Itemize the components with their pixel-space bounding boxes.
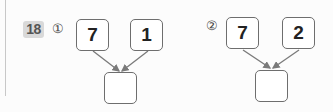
margin-divider [5,0,6,96]
part-2-top-left-box: 7 [226,17,259,49]
part-1-answer-box[interactable] [104,72,137,104]
part-1-top-right-box: 1 [130,19,163,51]
part-2-marker: ② [206,19,218,32]
problem-number-badge: 18 [23,21,44,38]
part-1-marker: ① [52,22,64,35]
part-1-top-left-box: 7 [76,19,109,51]
part-2-answer-box[interactable] [255,70,288,102]
part-2-top-right-box: 2 [282,17,315,49]
